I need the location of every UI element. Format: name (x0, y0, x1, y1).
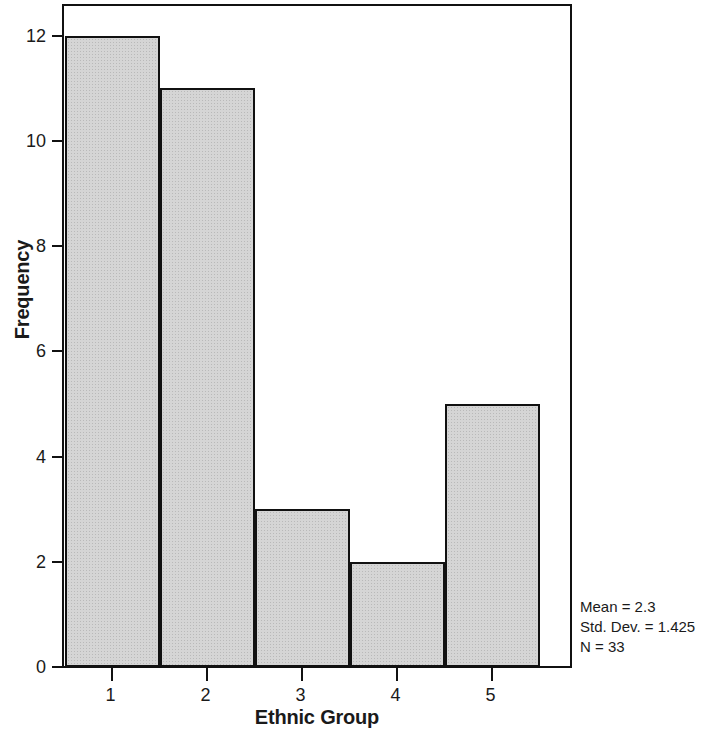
x-tick-label: 4 (376, 686, 416, 704)
x-tick-label: 5 (471, 686, 511, 704)
stats-std-dev: Std. Dev. = 1.425 (580, 617, 695, 637)
stats-n: N = 33 (580, 637, 695, 657)
y-tick-mark (52, 245, 62, 247)
x-tick-mark (111, 668, 113, 681)
stats-mean: Mean = 2.3 (580, 597, 695, 617)
y-tick-mark (52, 561, 62, 563)
y-tick-label: 6 (6, 342, 46, 360)
y-tick-label: 4 (6, 448, 46, 466)
plot-area (62, 4, 572, 668)
y-tick-label: 12 (6, 27, 46, 45)
bar (350, 562, 445, 667)
bar (160, 88, 255, 667)
x-tick-mark (206, 668, 208, 681)
x-tick-label: 2 (186, 686, 226, 704)
y-tick-label: 10 (6, 132, 46, 150)
histogram-chart: Frequency 024681012 12345 Ethnic Group M… (0, 0, 713, 738)
y-tick-label: 0 (6, 658, 46, 676)
y-tick-label: 2 (6, 553, 46, 571)
x-axis-title: Ethnic Group (62, 706, 572, 729)
x-tick-mark (301, 668, 303, 681)
bar (65, 36, 160, 667)
x-tick-label: 3 (281, 686, 321, 704)
bar (255, 509, 350, 667)
bars-layer (64, 6, 570, 666)
y-tick-mark (52, 35, 62, 37)
bar (445, 404, 540, 667)
y-tick-mark (52, 140, 62, 142)
y-tick-mark (52, 350, 62, 352)
x-tick-mark (491, 668, 493, 681)
x-tick-label: 1 (91, 686, 131, 704)
y-tick-mark (52, 456, 62, 458)
x-tick-mark (396, 668, 398, 681)
y-tick-mark (52, 666, 62, 668)
y-tick-label: 8 (6, 237, 46, 255)
stats-annotation: Mean = 2.3 Std. Dev. = 1.425 N = 33 (580, 597, 695, 657)
